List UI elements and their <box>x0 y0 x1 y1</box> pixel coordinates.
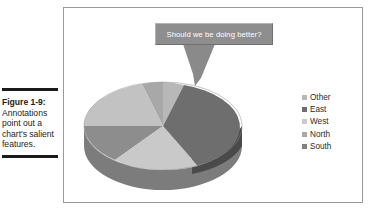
legend-item-north[interactable]: North <box>302 129 358 140</box>
legend-swatch-icon <box>302 107 307 112</box>
callout-pointer-icon <box>181 44 217 86</box>
legend-label: East <box>310 105 326 114</box>
caption-rule-top <box>2 88 58 91</box>
legend-label: West <box>310 117 329 126</box>
legend-label: North <box>310 130 330 139</box>
legend-item-other[interactable]: Other <box>302 92 358 103</box>
legend-item-west[interactable]: West <box>302 116 358 127</box>
figure-page: Figure 1-9: Annotations point out a char… <box>0 0 374 217</box>
legend-label: South <box>310 142 331 151</box>
figure-caption: Figure 1-9: Annotations point out a char… <box>0 88 60 208</box>
caption-rule-bottom <box>2 155 58 158</box>
legend-swatch-icon <box>302 95 307 100</box>
legend-swatch-icon <box>302 119 307 124</box>
caption-label: Figure 1-9: <box>2 97 60 108</box>
caption-text: Figure 1-9: Annotations point out a char… <box>2 97 60 150</box>
chart-frame: Should we be doing better? Other East We… <box>63 7 363 203</box>
legend-swatch-icon <box>302 132 307 137</box>
legend-swatch-icon <box>302 144 307 149</box>
annotation-text: Should we be doing better? <box>166 30 261 39</box>
legend-label: Other <box>310 93 330 102</box>
caption-body: Annotations point out a chart's salient … <box>2 108 60 150</box>
chart-legend: Other East West North South <box>302 92 358 153</box>
legend-item-east[interactable]: East <box>302 104 358 115</box>
legend-item-south[interactable]: South <box>302 141 358 152</box>
annotation-callout[interactable]: Should we be doing better? <box>155 23 273 45</box>
